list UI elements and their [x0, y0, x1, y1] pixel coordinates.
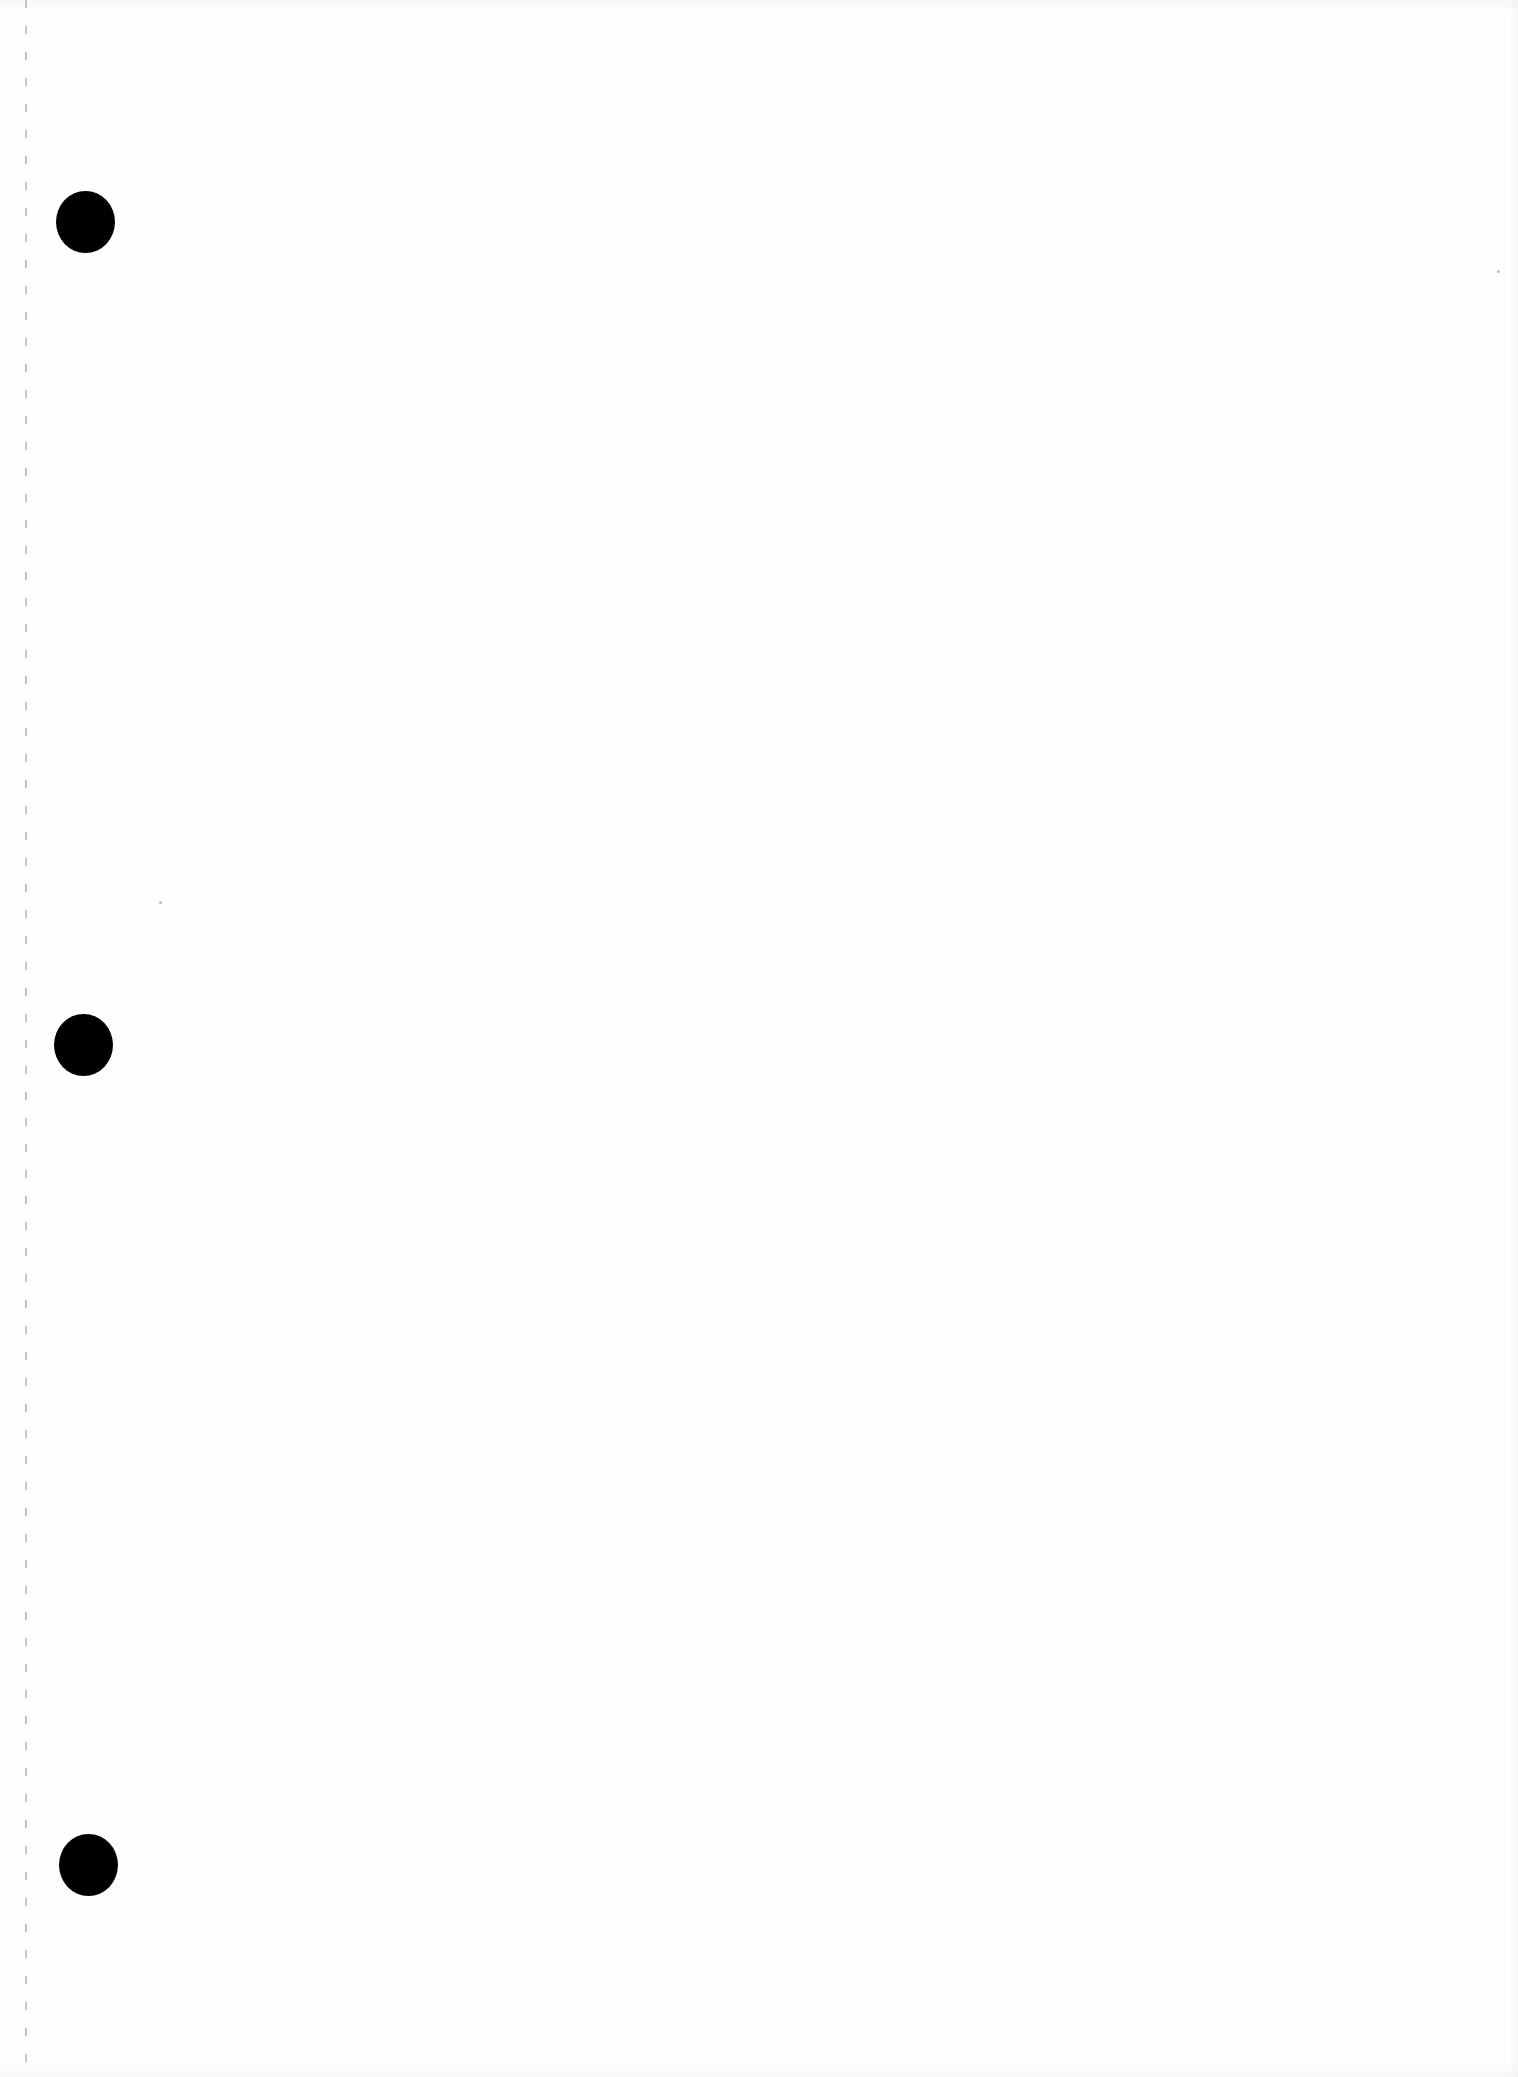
scan-edge-right [1508, 0, 1518, 2077]
scan-edge-bottom [0, 2063, 1518, 2077]
punch-hole-top [56, 191, 115, 253]
paper-sheet [0, 0, 1518, 2077]
punch-hole-bottom [59, 1834, 118, 1896]
scan-speck [159, 901, 162, 904]
punch-hole-middle [54, 1014, 113, 1076]
perforation-line [25, 0, 27, 2077]
scan-edge-top [0, 0, 1518, 14]
scan-speck [1497, 270, 1500, 273]
